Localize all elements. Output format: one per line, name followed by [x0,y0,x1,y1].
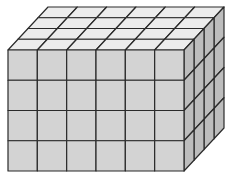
cube-front-facet [96,141,125,171]
cube-front-facet [8,111,37,141]
cube-front-facet [67,80,96,110]
cube-front-facet [155,50,184,80]
cube-front-facet [155,80,184,110]
cube-front-facet [37,111,66,141]
cube-front-facet [67,141,96,171]
cube-front-facet [8,80,37,110]
cube-front-facet [155,141,184,171]
cube-front-facet [125,141,154,171]
cube-front-facet [96,111,125,141]
cube-front-facet [125,111,154,141]
cube-front-facet [8,141,37,171]
cube-front-facet [125,80,154,110]
cube-prism-diagram [0,0,231,182]
cube-front-facet [155,111,184,141]
cube-front-facet [67,50,96,80]
cube-front-facet [96,50,125,80]
cube-front-facet [37,141,66,171]
cube-front-facet [125,50,154,80]
cube-front-facet [67,111,96,141]
cube-front-facet [96,80,125,110]
cube-front-facet [37,80,66,110]
cube-front-facet [8,50,37,80]
front-face [8,50,184,171]
cube-front-facet [37,50,66,80]
